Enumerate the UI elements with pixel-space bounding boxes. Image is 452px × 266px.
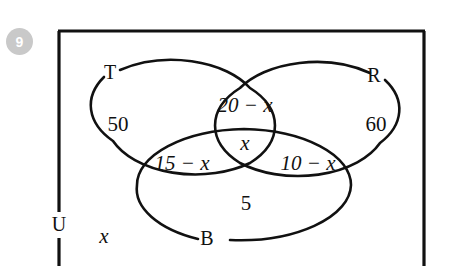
region-value-outside-all: x [98, 224, 109, 248]
region-value-r-only: 60 [366, 112, 387, 136]
region-value-b-only: 5 [241, 191, 252, 215]
region-value-t-and-r: 20 − x [218, 93, 274, 117]
venn-diagram-figure: 9 T R B U 50 60 5 20 − x 15 − x 10 − x x… [0, 0, 452, 266]
set-label-r: R [367, 64, 381, 86]
set-label-b: B [200, 227, 213, 249]
region-value-t-only: 50 [108, 112, 129, 136]
region-value-all-three: x [239, 131, 250, 155]
universal-set-label-u: U [52, 213, 67, 235]
set-label-t: T [104, 61, 116, 83]
region-value-t-and-b: 15 − x [155, 151, 211, 175]
venn-diagram-canvas: T R B U 50 60 5 20 − x 15 − x 10 − x x x [0, 0, 452, 266]
region-value-r-and-b: 10 − x [281, 151, 337, 175]
